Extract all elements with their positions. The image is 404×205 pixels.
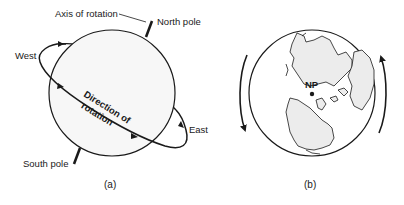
east-label: East [189, 124, 208, 135]
panel-a: Axis of rotation North pole West East So… [15, 8, 208, 190]
caption-b: (b) [304, 179, 316, 190]
south-pole-axis [74, 148, 80, 164]
axis-of-rotation-label: Axis of rotation [55, 8, 118, 19]
west-label: West [15, 50, 37, 61]
caption-a: (a) [104, 179, 116, 190]
south-pole-label: South pole [23, 158, 68, 169]
earth-rotation-diagram: Axis of rotation North pole West East So… [0, 0, 404, 205]
panel-b: NP (b) [240, 30, 386, 190]
north-pole-label: North pole [157, 16, 201, 27]
axis-leader-line [119, 14, 146, 22]
orbit-arrow-top-icon [58, 41, 64, 47]
rotation-arrow-left-icon [240, 55, 247, 130]
north-pole-dot [310, 92, 314, 96]
rotation-arrow-right-icon [379, 57, 386, 133]
np-label: NP [305, 79, 319, 90]
north-pole-axis [146, 21, 152, 37]
